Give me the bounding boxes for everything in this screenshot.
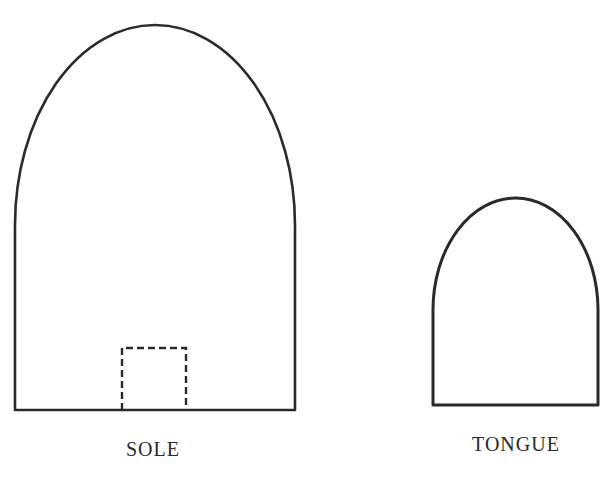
sole-outline: [15, 25, 295, 410]
diagram-canvas: [0, 0, 616, 480]
tongue-label: TONGUE: [472, 433, 560, 456]
sole-dashed-notch: [122, 348, 186, 410]
tongue-outline: [433, 198, 598, 405]
sole-label: SOLE: [126, 438, 180, 461]
